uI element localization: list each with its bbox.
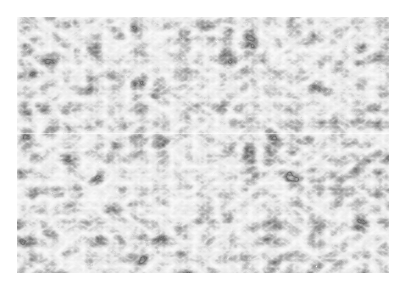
scan-seam-line: [17, 133, 389, 134]
texture-image: [17, 17, 389, 273]
texture-pattern: [17, 17, 389, 273]
